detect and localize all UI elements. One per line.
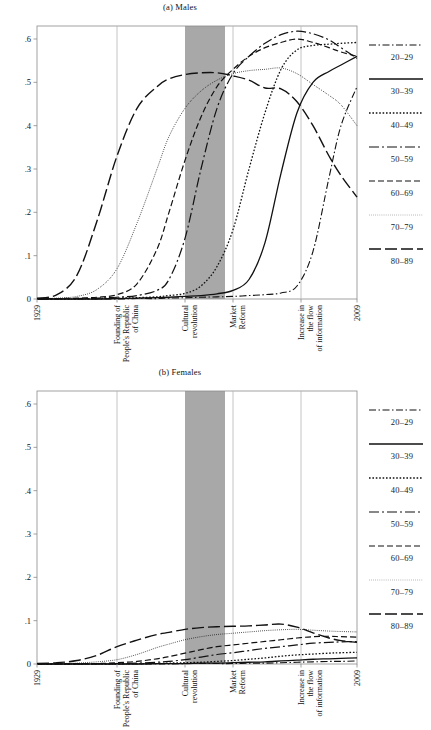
legend-label-60-69: 60–69	[374, 188, 430, 198]
legend-entry-70-79[interactable]: 70–79	[366, 577, 431, 611]
legend-label-20-29: 20–29	[374, 417, 430, 427]
x-tick-label-4-line-1: the flow	[306, 305, 315, 332]
y-tick-label-1: .1	[25, 616, 31, 626]
x-tick-label-group-0: 1929	[33, 670, 42, 686]
legend-entry-50-59[interactable]: 50–59	[366, 144, 431, 178]
legend-swatch-50-59	[368, 509, 424, 515]
legend-entry-70-79[interactable]: 70–79	[366, 212, 431, 246]
x-tick-label-group-3: MarketReform	[229, 669, 247, 694]
x-tick-label-1-line-0: Founding of	[113, 305, 122, 345]
x-tick-label-4-line-0: Increase in	[297, 670, 306, 705]
legend-swatch-20-29	[368, 42, 424, 48]
x-tick-label-3-line-1: Reform	[238, 669, 247, 694]
legend-entry-40-49[interactable]: 40–49	[366, 475, 431, 509]
legend-entry-80-89[interactable]: 80–89	[366, 246, 431, 280]
x-tick-label-1-line-2: of China	[131, 670, 140, 698]
legend-swatch-80-89	[368, 246, 424, 252]
x-tick-label-4-line-2: of information	[315, 305, 324, 351]
legend-swatch-40-49	[368, 110, 424, 116]
legend-swatch-60-69	[368, 178, 424, 184]
x-tick-label-group-1: Founding ofPeople's Republicof China	[113, 305, 140, 363]
x-tick-label-group-0: 1929	[33, 305, 42, 321]
shaded-band-cultural-revolution	[185, 26, 225, 299]
legend-label-80-89: 80–89	[374, 256, 430, 266]
x-tick-label-1-line-1: People's Republic	[122, 305, 131, 363]
legend-swatch-60-69	[368, 543, 424, 549]
legend-entry-50-59[interactable]: 50–59	[366, 509, 431, 543]
legend-label-20-29: 20–29	[374, 52, 430, 62]
panel-males: (a) Males 0.1.2.3.4.5.61929Founding ofPe…	[0, 0, 431, 365]
y-tick-label-6: .6	[25, 34, 31, 44]
legend-label-40-49: 40–49	[374, 120, 430, 130]
legend-entry-80-89[interactable]: 80–89	[366, 611, 431, 645]
legend-label-70-79: 70–79	[374, 587, 430, 597]
legend-swatch-50-59	[368, 144, 424, 150]
x-tick-label-4-line-0: Increase in	[297, 305, 306, 340]
legend-entry-60-69[interactable]: 60–69	[366, 178, 431, 212]
legend-label-30-39: 30–39	[374, 451, 430, 461]
x-tick-label-1-line-2: of China	[131, 305, 140, 333]
legend-label-30-39: 30–39	[374, 86, 430, 96]
legend-males: 20–2930–3940–4950–5960–6970–7980–89	[366, 42, 431, 280]
y-tick-label-6: .6	[25, 399, 31, 409]
x-tick-label-group-2: Culturalrevolution	[181, 669, 199, 703]
legend-entry-60-69[interactable]: 60–69	[366, 543, 431, 577]
x-tick-label-3-line-1: Reform	[238, 304, 247, 329]
legend-entry-20-29[interactable]: 20–29	[366, 42, 431, 76]
y-tick-label-2: .2	[25, 572, 31, 582]
x-tick-label-group-5: 2009	[353, 670, 362, 686]
y-tick-label-2: .2	[25, 207, 31, 217]
legend-swatch-80-89	[368, 611, 424, 617]
x-tick-label-group-4: Increase inthe flowof information	[297, 305, 324, 352]
shaded-band-cultural-revolution	[185, 391, 225, 664]
y-tick-label-5: .5	[25, 442, 31, 452]
legend-entry-30-39[interactable]: 30–39	[366, 76, 431, 110]
x-tick-label-4-line-1: the flow	[306, 670, 315, 697]
legend-swatch-20-29	[368, 407, 424, 413]
legend-entry-20-29[interactable]: 20–29	[366, 407, 431, 441]
x-tick-label-group-5: 2009	[353, 305, 362, 321]
y-tick-label-0: 0	[27, 294, 31, 304]
y-tick-label-3: .3	[25, 529, 31, 539]
x-tick-label-0-line-0: 1929	[33, 670, 42, 686]
panel-title-females: (b) Females	[0, 367, 360, 377]
legend-swatch-30-39	[368, 76, 424, 82]
x-tick-label-3-line-0: Market	[229, 304, 238, 328]
x-tick-label-2-line-0: Cultural	[181, 304, 190, 331]
y-tick-label-5: .5	[25, 77, 31, 87]
x-tick-label-5-line-0: 2009	[353, 305, 362, 321]
legend-females: 20–2930–3940–4950–5960–6970–7980–89	[366, 407, 431, 645]
legend-swatch-40-49	[368, 475, 424, 481]
legend-label-60-69: 60–69	[374, 553, 430, 563]
legend-swatch-70-79	[368, 577, 424, 583]
x-tick-label-2-line-1: revolution	[190, 305, 199, 338]
y-tick-label-3: .3	[25, 164, 31, 174]
legend-entry-30-39[interactable]: 30–39	[366, 441, 431, 475]
legend-label-70-79: 70–79	[374, 222, 430, 232]
x-tick-label-2-line-1: revolution	[190, 670, 199, 703]
x-tick-label-2-line-0: Cultural	[181, 669, 190, 696]
legend-swatch-70-79	[368, 212, 424, 218]
figure-root: (a) Males 0.1.2.3.4.5.61929Founding ofPe…	[0, 0, 431, 730]
y-tick-label-0: 0	[27, 659, 31, 669]
legend-label-50-59: 50–59	[374, 519, 430, 529]
y-tick-label-4: .4	[25, 486, 32, 496]
x-tick-label-group-4: Increase inthe flowof information	[297, 670, 324, 717]
y-tick-label-1: .1	[25, 251, 31, 261]
y-tick-label-4: .4	[25, 121, 32, 131]
x-tick-label-1-line-1: People's Republic	[122, 670, 131, 728]
x-tick-label-group-1: Founding ofPeople's Republicof China	[113, 670, 140, 728]
x-tick-label-4-line-2: of information	[315, 670, 324, 716]
x-tick-label-3-line-0: Market	[229, 669, 238, 693]
legend-label-40-49: 40–49	[374, 485, 430, 495]
x-tick-label-0-line-0: 1929	[33, 305, 42, 321]
x-tick-label-5-line-0: 2009	[353, 670, 362, 686]
legend-label-80-89: 80–89	[374, 621, 430, 631]
legend-label-50-59: 50–59	[374, 154, 430, 164]
x-tick-label-group-3: MarketReform	[229, 304, 247, 329]
legend-entry-40-49[interactable]: 40–49	[366, 110, 431, 144]
x-tick-label-group-2: Culturalrevolution	[181, 304, 199, 338]
x-tick-label-1-line-0: Founding of	[113, 670, 122, 710]
panel-title-males: (a) Males	[0, 2, 360, 12]
panel-females: (b) Females 0.1.2.3.4.5.61929Founding of…	[0, 365, 431, 730]
